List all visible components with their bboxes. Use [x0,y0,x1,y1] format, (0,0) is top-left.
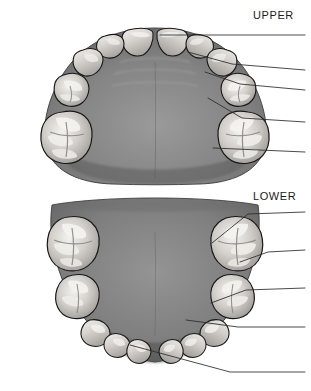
lower-arch-group [47,198,262,363]
tooth-lower-right-central-incisor [127,340,151,364]
lower-arch-label: LOWER [253,190,296,202]
tooth-lower-right-lateral-incisor [104,334,130,358]
tooth-lower-left-central-incisor [159,340,183,364]
upper-arch-group [41,28,269,185]
tooth-lower-left-lateral-incisor [180,334,206,358]
dental-arches-figure: UPPER LOWER [0,0,311,391]
upper-arch-label: UPPER [253,9,294,21]
